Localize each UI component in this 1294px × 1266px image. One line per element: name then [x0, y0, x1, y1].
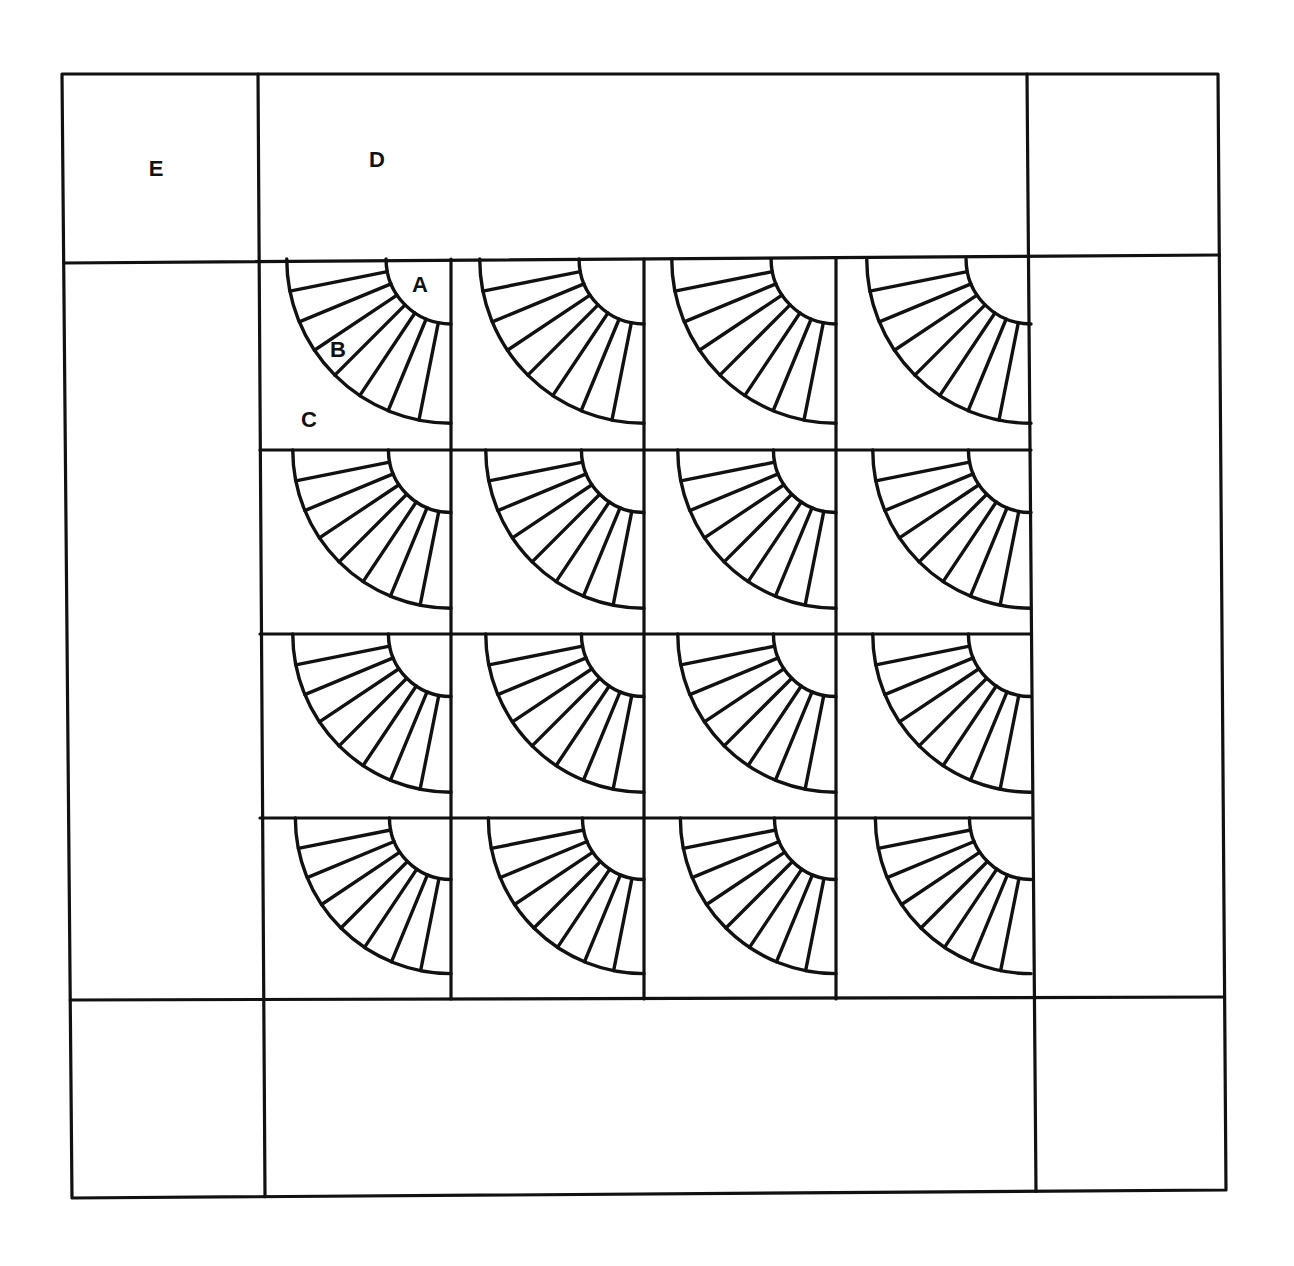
fan-blade-seam — [583, 692, 620, 780]
fan-blade-seam — [532, 494, 600, 562]
fan-blade-seam — [902, 852, 980, 904]
fan-blade-seam — [805, 695, 824, 789]
fan-blade-seam — [921, 862, 988, 929]
fan-blade-seam — [612, 323, 631, 420]
fan-blade-seam — [298, 830, 390, 848]
fan-blade-seam — [363, 686, 416, 766]
fan-blade-seam — [943, 502, 996, 582]
fan-blade-seam — [360, 313, 415, 396]
fan-blade-seam — [775, 508, 812, 596]
fan-block — [873, 634, 1031, 792]
fan-blade-seam — [528, 305, 598, 375]
fan-blade-seam — [614, 878, 632, 970]
fan-blade-seam — [999, 323, 1018, 420]
quilt-diagram: E D A B C — [0, 0, 1294, 1266]
fan-blade-seam — [1000, 511, 1019, 605]
fan-blade-seam — [365, 869, 417, 947]
fan-blade-seam — [507, 295, 590, 350]
fan-block — [678, 634, 836, 792]
fan-blade-seam — [390, 692, 427, 780]
fan-block — [293, 634, 451, 792]
fan-blade-seam — [489, 462, 583, 481]
fan-blade-seam — [421, 878, 439, 970]
fan-block — [867, 259, 1031, 423]
fan-blade-seam — [887, 842, 974, 878]
fan-blade-seam — [776, 875, 812, 962]
fan-blade-seam — [420, 511, 439, 605]
fan-blade-seam — [707, 852, 785, 904]
fan-blade-seam — [699, 295, 782, 350]
fan-blade-seam — [314, 295, 397, 350]
fan-blade-seam — [943, 686, 996, 766]
fan-blade-seam — [885, 658, 973, 695]
fan-blade-seam — [899, 485, 979, 538]
fan-blade-seam — [307, 842, 394, 878]
fan-blade-seam — [1000, 695, 1019, 789]
fan-blade-seam — [684, 284, 776, 322]
fan-blade-seam — [870, 272, 967, 291]
fan-blade-seam — [775, 692, 812, 780]
fan-blade-seam — [483, 272, 580, 291]
fan-blade-seam — [885, 474, 973, 511]
fan-blade-seam — [556, 686, 609, 766]
fan-blade-seam — [940, 313, 995, 396]
fan-blade-seam — [339, 494, 407, 562]
fan-blade-seam — [919, 494, 987, 562]
fan-blade-seam — [1001, 878, 1019, 970]
fan-blade-seam — [894, 295, 977, 350]
fan-blade-seam — [420, 695, 439, 789]
fan-block-grid — [260, 259, 1031, 999]
fan-blade-seam — [299, 284, 391, 322]
fan-blade-seam — [899, 669, 979, 722]
fan-blade-seam — [748, 502, 801, 582]
fan-blade-seam — [581, 319, 619, 411]
fan-blade-seam — [726, 862, 793, 929]
fan-blade-seam — [879, 284, 971, 322]
fan-blade-seam — [512, 669, 592, 722]
fan-blade-seam — [305, 474, 393, 511]
fan-block — [678, 450, 836, 608]
fan-blade-seam — [391, 875, 427, 962]
fan-blade-seam — [690, 474, 778, 511]
fan-blade-seam — [876, 646, 970, 665]
fan-blade-seam — [305, 658, 393, 695]
fan-blade-seam — [341, 862, 408, 929]
fan-blade-seam — [675, 272, 772, 291]
fan-blade-seam — [553, 313, 608, 396]
fan-blade-seam — [512, 485, 592, 538]
fan-blade-seam — [556, 502, 609, 582]
fan-blade-seam — [724, 494, 792, 562]
fan-block — [680, 818, 836, 974]
fan-blade-seam — [363, 502, 416, 582]
fan-blade-seam — [971, 875, 1007, 962]
fan-blade-seam — [804, 323, 823, 420]
fan-blade-seam — [805, 511, 824, 605]
fan-blade-seam — [492, 284, 584, 322]
fan-blade-seam — [489, 646, 583, 665]
fan-blade-seam — [724, 678, 792, 746]
fan-blade-seam — [491, 830, 583, 848]
fan-blade-seam — [681, 462, 775, 481]
fan-blade-seam — [558, 869, 610, 947]
fan-blade-seam — [319, 485, 399, 538]
fan-block — [875, 818, 1031, 974]
label-b-fan-blade: B — [330, 337, 346, 362]
fan-blade-seam — [681, 646, 775, 665]
fan-blade-seam — [968, 319, 1006, 411]
fan-block — [293, 450, 451, 608]
fan-blade-seam — [692, 842, 779, 878]
bottom-border-seam — [70, 997, 1224, 1000]
fan-blade-seam — [419, 323, 438, 420]
label-a-fan-center: A — [412, 272, 428, 297]
label-c-background: C — [301, 407, 317, 432]
fan-blade-seam — [296, 646, 390, 665]
fan-blade-seam — [970, 692, 1007, 780]
fan-blade-seam — [322, 852, 400, 904]
fan-blade-seam — [296, 462, 390, 481]
fan-blade-seam — [613, 695, 632, 789]
label-d-border-strip: D — [369, 147, 385, 172]
fan-blade-seam — [534, 862, 601, 929]
fan-blade-seam — [532, 678, 600, 746]
fan-blade-seam — [690, 658, 778, 695]
fan-blade-seam — [704, 669, 784, 722]
